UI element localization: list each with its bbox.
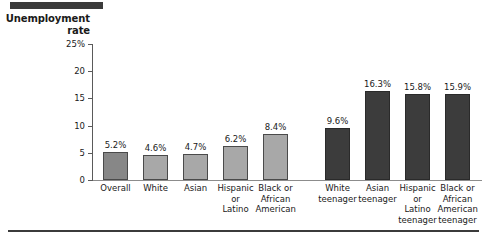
bar-value-label: 6.2% <box>225 134 247 144</box>
y-tick-mark <box>88 126 93 127</box>
category-label: Black or African American <box>256 183 296 215</box>
top-accent-rule <box>10 2 103 9</box>
bar: 9.6% <box>325 128 350 180</box>
category-label: Asian <box>176 183 216 194</box>
y-axis-line <box>92 44 93 181</box>
category-label: Black or African American teenager <box>438 183 478 225</box>
y-axis-title: Unemployment rate <box>4 13 90 37</box>
bar-value-label: 4.6% <box>145 143 167 153</box>
x-axis-line <box>92 180 482 181</box>
category-label: White <box>136 183 176 194</box>
y-tick-mark <box>88 153 93 154</box>
bar: 8.4% <box>263 134 288 180</box>
bar: 15.9% <box>445 94 470 180</box>
category-label: Hispanic or Latino teenager <box>398 183 438 225</box>
bar-value-label: 15.8% <box>404 82 431 92</box>
y-tick-label: 25% <box>66 39 85 49</box>
bar-value-label: 9.6% <box>327 116 349 126</box>
y-tick-label: 0 <box>80 175 85 185</box>
y-tick-label: 20 <box>74 66 85 76</box>
bar-value-label: 16.3% <box>364 79 391 89</box>
y-tick-mark <box>88 44 93 45</box>
bar-value-label: 15.9% <box>444 82 471 92</box>
bar: 6.2% <box>223 146 248 180</box>
y-tick-mark <box>88 98 93 99</box>
bar: 4.7% <box>183 154 208 180</box>
bar: 15.8% <box>405 94 430 180</box>
category-label: Overall <box>96 183 136 194</box>
category-label: Asian teenager <box>358 183 398 204</box>
bar: 4.6% <box>143 155 168 180</box>
y-tick-label: 15 <box>74 93 85 103</box>
bar-value-label: 8.4% <box>265 122 287 132</box>
bar: 5.2% <box>103 152 128 180</box>
plot-area: 25%20151050 5.2%4.6%4.7%6.2%8.4%9.6%16.3… <box>92 44 482 181</box>
bar: 16.3% <box>365 91 390 180</box>
y-tick-label: 5 <box>80 148 85 158</box>
y-tick-mark <box>88 180 93 181</box>
category-label: White teenager <box>318 183 358 204</box>
bottom-separator-rule <box>8 230 479 232</box>
bar-value-label: 4.7% <box>185 142 207 152</box>
chart-figure: Unemployment rate 25%20151050 5.2%4.6%4.… <box>0 0 487 240</box>
category-label: Hispanic or Latino <box>216 183 256 215</box>
y-tick-label: 10 <box>74 121 85 131</box>
y-tick-mark <box>88 71 93 72</box>
bar-value-label: 5.2% <box>105 140 127 150</box>
